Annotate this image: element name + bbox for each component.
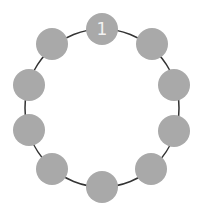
node-circle <box>136 28 168 60</box>
diagram-node <box>13 69 45 101</box>
diagram-node <box>158 69 190 101</box>
diagram-node: 1 <box>86 13 118 45</box>
diagram-node <box>135 153 167 185</box>
node-circle <box>158 69 190 101</box>
diagram-node <box>158 115 190 147</box>
node-circle <box>86 171 118 203</box>
diagram-node <box>136 28 168 60</box>
diagram-node <box>36 28 68 60</box>
node-group: 1 <box>13 13 190 203</box>
node-circle <box>135 153 167 185</box>
node-circle <box>13 69 45 101</box>
node-circle <box>158 115 190 147</box>
diagram-node <box>13 114 45 146</box>
node-circle <box>36 153 68 185</box>
node-circle <box>36 28 68 60</box>
diagram-node <box>86 171 118 203</box>
node-label: 1 <box>97 19 108 39</box>
circular-node-diagram: 1 <box>0 0 200 209</box>
diagram-node <box>36 153 68 185</box>
node-circle <box>13 114 45 146</box>
